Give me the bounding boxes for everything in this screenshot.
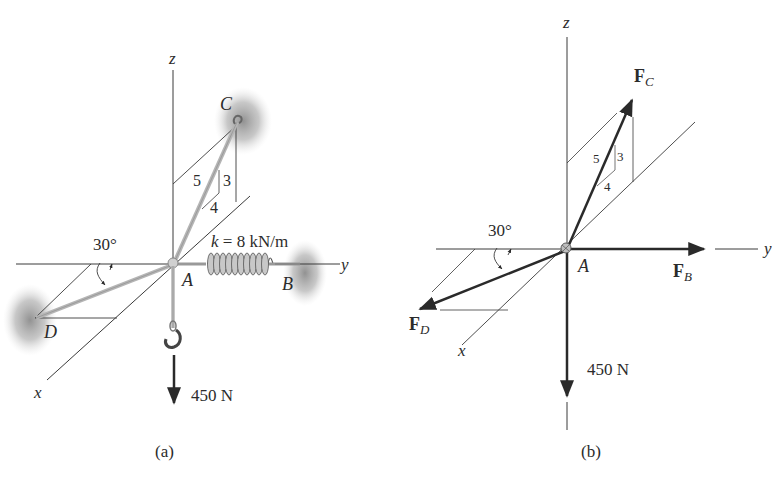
cable-AD-edge xyxy=(36,265,172,318)
z-axis-label-a: z xyxy=(168,49,176,68)
force-FC-label: FC xyxy=(634,66,654,89)
angle-label-b: 30° xyxy=(488,221,512,240)
angle-arc-b xyxy=(494,248,502,269)
point-C-label: C xyxy=(220,94,233,114)
x-axis-label-b: x xyxy=(457,341,466,360)
x-axis-a xyxy=(47,196,250,380)
point-D-label: D xyxy=(43,322,57,342)
force-FD-label: FD xyxy=(409,314,430,337)
support-D xyxy=(3,284,57,356)
load-label-a: 450 N xyxy=(191,386,233,405)
fc-proj-diag xyxy=(567,113,617,163)
support-B xyxy=(283,240,327,306)
slope-horiz-a: 4 xyxy=(210,199,218,216)
figure-b: z y x A FC FB FD 5 3 4 30° 450 N (b) xyxy=(409,13,772,461)
force-FC-arrow xyxy=(568,100,632,247)
angle-label-a: 30° xyxy=(93,235,117,254)
hook-icon xyxy=(165,330,180,347)
y-axis-label-b: y xyxy=(762,239,772,258)
diagram-canvas: z y x C A B D 5 3 4 30° k = 8 kN/m 450 N… xyxy=(0,0,783,481)
force-FB-label: FB xyxy=(673,261,692,284)
fd-proj-diag xyxy=(432,249,475,292)
x-axis-label-a: x xyxy=(33,383,42,402)
point-A-label-b: A xyxy=(577,256,590,276)
slope-hyp-b: 5 xyxy=(593,151,600,166)
caption-b: (b) xyxy=(581,442,601,461)
slope-vert-b: 3 xyxy=(617,149,624,164)
spring-constant-label: k = 8 kN/m xyxy=(211,232,288,251)
slope-vert-a: 3 xyxy=(223,172,231,189)
point-A-label-a: A xyxy=(181,270,194,290)
z-axis-label-b: z xyxy=(562,13,570,32)
load-label-b: 450 N xyxy=(587,360,629,379)
slope-hyp-a: 5 xyxy=(193,172,201,189)
slope-horiz-b: 4 xyxy=(604,179,611,194)
y-axis-label-a: y xyxy=(339,255,349,274)
angle-arc-a xyxy=(97,263,105,285)
figure-a: z y x C A B D 5 3 4 30° k = 8 kN/m 450 N… xyxy=(3,49,349,461)
force-FD-arrow xyxy=(420,251,565,309)
caption-a: (a) xyxy=(155,442,174,461)
point-B-label: B xyxy=(282,274,293,294)
spring-AB xyxy=(176,252,300,276)
